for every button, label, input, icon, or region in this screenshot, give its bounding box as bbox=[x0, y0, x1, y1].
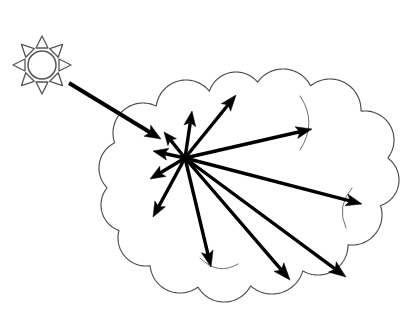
scattering-diagram bbox=[0, 0, 410, 311]
sun-shape bbox=[13, 36, 71, 94]
sun-disc bbox=[28, 51, 56, 79]
figure-root bbox=[0, 0, 410, 311]
